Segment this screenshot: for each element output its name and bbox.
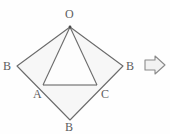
- vertex-label-c: C: [101, 88, 109, 100]
- geometry-figure: O B B A C B: [0, 0, 170, 134]
- vertex-label-a: A: [33, 88, 42, 100]
- vertex-label-b-bottom: B: [65, 121, 73, 133]
- figure-canvas: [0, 0, 170, 134]
- vertex-label-b-right: B: [126, 60, 134, 72]
- vertex-label-b-left: B: [3, 60, 11, 72]
- vertex-label-o: O: [65, 8, 74, 20]
- vertex-dot-o: [69, 26, 72, 29]
- arrow-right-icon: [145, 56, 165, 74]
